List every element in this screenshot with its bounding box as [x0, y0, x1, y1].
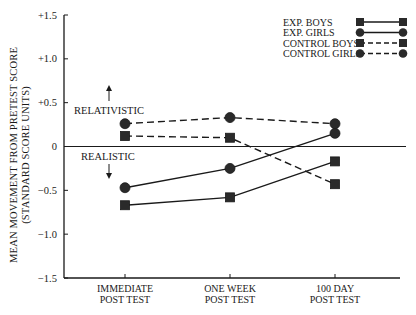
legend-label: EXP. GIRLS: [283, 27, 335, 38]
y-axis-sublabel: (STANDARD SCORE UNITS): [20, 47, 32, 263]
square-marker: [121, 201, 130, 210]
down-arrow-icon: [106, 173, 112, 179]
x-tick-label: IMMEDIATE: [97, 283, 153, 294]
circle-marker: [225, 163, 235, 173]
y-tick-label: 0: [52, 141, 57, 152]
square-marker: [399, 39, 407, 47]
y-tick-label: −1.5: [38, 273, 57, 284]
y-tick-label: +0.5: [38, 97, 57, 108]
circle-marker: [330, 128, 340, 138]
square-marker: [331, 157, 340, 166]
legend-item: EXP. GIRLS: [283, 27, 407, 38]
square-marker: [356, 18, 364, 26]
legend: EXP. BOYSEXP. GIRLSCONTROL BOYSCONTROL G…: [283, 17, 407, 60]
x-tick-label: 100 DAY: [316, 283, 354, 294]
y-axis-title: MEAN MOVEMENT FROM PRETEST SCORE (STANDA…: [0, 0, 40, 315]
annotation-relativistic: RELATIVISTIC: [74, 105, 144, 116]
legend-item: CONTROL BOYS: [283, 38, 407, 49]
y-tick-label: −1.0: [38, 229, 57, 240]
square-marker: [226, 193, 235, 202]
y-tick-label: +1.5: [38, 10, 57, 21]
square-marker: [121, 131, 130, 140]
series-control-boys: [121, 131, 340, 188]
circle-marker: [225, 113, 235, 123]
circle-marker: [356, 49, 365, 58]
x-tick-label: POST TEST: [205, 294, 255, 305]
square-marker: [226, 133, 235, 142]
legend-item: EXP. BOYS: [283, 17, 407, 28]
annotations: RELATIVISTICREALISTIC: [74, 85, 144, 179]
x-tick-label: POST TEST: [100, 294, 150, 305]
series-layer: [120, 113, 340, 210]
circle-marker: [356, 28, 365, 37]
x-tick-label: POST TEST: [310, 294, 360, 305]
up-arrow-icon: [106, 85, 112, 91]
circle-marker: [330, 119, 340, 129]
y-tick-label: −0.5: [38, 185, 57, 196]
annotation-realistic: REALISTIC: [81, 151, 135, 162]
series-control-girls: [120, 113, 340, 129]
square-marker: [399, 18, 407, 26]
square-marker: [331, 180, 340, 189]
legend-item: CONTROL GIRLS: [283, 48, 407, 59]
circle-marker: [399, 49, 408, 58]
square-marker: [356, 39, 364, 47]
line-chart: +1.5+1.0+0.50−0.5−1.0−1.5IMMEDIATEPOST T…: [0, 0, 416, 315]
x-tick-label: ONE WEEK: [204, 283, 257, 294]
legend-label: CONTROL BOYS: [283, 38, 359, 49]
legend-label: EXP. BOYS: [283, 17, 332, 28]
circle-marker: [399, 28, 408, 37]
circle-marker: [120, 119, 130, 129]
legend-label: CONTROL GIRLS: [283, 48, 361, 59]
circle-marker: [120, 183, 130, 193]
y-tick-label: +1.0: [38, 53, 57, 64]
y-axis-label: MEAN MOVEMENT FROM PRETEST SCORE: [8, 47, 20, 263]
